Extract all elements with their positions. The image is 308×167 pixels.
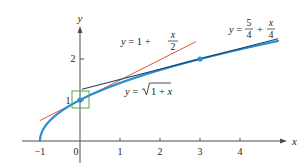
svg-text:2: 2	[171, 41, 176, 52]
x-axis-arrow-icon	[280, 139, 287, 144]
svg-text:y = 1 +: y = 1 +	[120, 36, 151, 47]
svg-text:4: 4	[269, 29, 274, 40]
svg-text:y =: y =	[228, 24, 242, 35]
label-tangent-x3: y = 5 4 + x 4	[228, 17, 275, 40]
svg-text:5: 5	[247, 17, 252, 28]
x-tick-label: 1	[118, 146, 123, 157]
svg-text:x: x	[170, 29, 176, 40]
svg-text:1 + x: 1 + x	[151, 86, 172, 97]
svg-text:4: 4	[247, 29, 252, 40]
x-axis: x −1 0 1 2 3 4	[22, 135, 297, 157]
point-3-2	[197, 56, 202, 61]
label-tangent-x0: y = 1 + x 2	[120, 29, 178, 52]
linear-approximation-chart: x −1 0 1 2 3 4 y 2 1 y =	[0, 0, 308, 167]
x-tick-label: 4	[238, 146, 243, 157]
tangent-line-x3	[82, 39, 278, 89]
svg-text:x: x	[268, 17, 274, 28]
x-tick-label: −1	[35, 146, 46, 157]
x-axis-label: x	[291, 135, 297, 147]
x-tick-label: 3	[198, 146, 203, 157]
y-axis-arrow-icon	[78, 26, 83, 33]
y-tick-label: 1	[66, 95, 71, 106]
y-tick-label: 2	[71, 53, 76, 64]
y-axis: y 2 1	[66, 12, 85, 163]
label-curve: y = 1 + x	[124, 83, 172, 97]
point-0-1	[77, 97, 82, 102]
x-tick-label: 0	[74, 146, 79, 157]
svg-text:+: +	[257, 24, 263, 35]
x-tick-label: 2	[158, 146, 163, 157]
y-axis-label: y	[77, 12, 83, 24]
svg-text:y =: y =	[124, 86, 138, 97]
